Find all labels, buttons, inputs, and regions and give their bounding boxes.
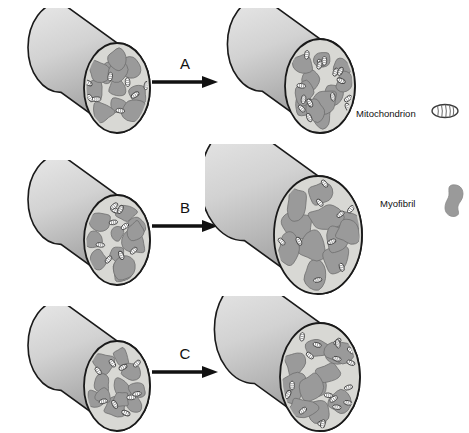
mitochondrion-icon — [96, 242, 105, 248]
mitochondrion-icon — [301, 95, 306, 104]
mitochondrion-icon — [430, 102, 460, 124]
adaptation-row-b: B — [0, 148, 360, 298]
adaptation-row-c: C — [0, 298, 360, 433]
muscle-fiber-after-a — [218, 8, 363, 147]
muscle-fiber-after-b — [205, 144, 370, 308]
arrow-a-icon — [150, 74, 220, 90]
arrow-a-group: A — [150, 56, 220, 94]
muscle-fiber-before-c — [18, 306, 158, 433]
mitochondrion-icon — [92, 97, 101, 102]
muscle-fiber-before-b — [18, 160, 158, 299]
mitochondrion-icon — [290, 381, 295, 390]
mitochondrion-icon — [297, 83, 306, 88]
legend-label-mitochondrion: Mitochondrion — [356, 108, 416, 119]
mitochondrion-icon — [300, 332, 305, 341]
legend-item-mitochondrion: Mitochondrion — [352, 100, 469, 146]
mitochondrion-icon — [324, 392, 333, 398]
legend: Mitochondrion Myofibril — [352, 100, 469, 192]
muscle-fiber-after-c — [210, 296, 368, 433]
adaptation-row-a: A — [0, 8, 360, 148]
mitochondrion-icon — [125, 78, 130, 87]
myofibril-icon — [442, 184, 468, 222]
mitochondrion-icon — [108, 72, 113, 81]
legend-item-myofibril: Myofibril — [352, 146, 469, 192]
legend-label-myofibril: Myofibril — [380, 198, 415, 209]
muscle-fiber-before-a — [18, 8, 158, 147]
arrow-a-label: A — [150, 56, 220, 71]
mitochondrion-icon — [304, 50, 309, 59]
muscle-adaptation-diagram: A B C — [0, 0, 469, 433]
mitochondrion-icon — [322, 56, 327, 65]
mitochondrion-icon — [116, 108, 125, 113]
